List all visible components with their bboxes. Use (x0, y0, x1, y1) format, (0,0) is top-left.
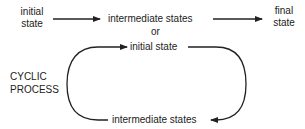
cycle-intermediate-states-label: intermediate states (112, 114, 197, 126)
cyclic-process-title: CYCLIC PROCESS (10, 70, 59, 96)
cycle-initial-state-label: initial state (130, 41, 177, 53)
cycle-arrow-left (67, 47, 127, 120)
intermediate-states-label: intermediate states (108, 13, 193, 25)
cyclic-process-title-line-1: CYCLIC (10, 70, 59, 83)
cyclic-process-title-line-2: PROCESS (10, 83, 59, 96)
initial-state-line-1: initial (12, 6, 52, 18)
final-state-line-1: final (266, 5, 302, 17)
final-state-label: final state (266, 5, 302, 29)
cycle-arrow-right (188, 47, 246, 120)
initial-state-label: initial state (12, 6, 52, 30)
initial-state-line-2: state (12, 18, 52, 30)
or-separator: or (151, 26, 160, 38)
final-state-line-2: state (266, 17, 302, 29)
